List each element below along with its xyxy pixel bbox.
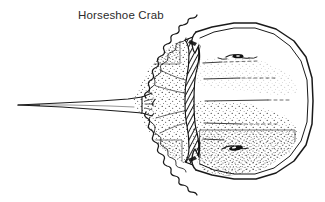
figure-root: Horseshoe Crab [0,0,325,202]
crab-drawing-group [18,15,315,195]
horseshoe-crab-illustration [0,0,325,202]
prosoma-carapace [190,23,315,185]
